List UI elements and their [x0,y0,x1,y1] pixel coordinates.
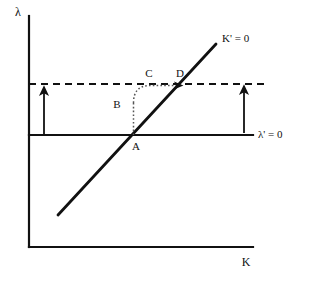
point-label-c: C [145,67,152,79]
k-dot-zero-label: K' = 0 [222,32,250,44]
x-axis-label: K [242,255,251,269]
point-label-b: B [113,98,120,110]
lambda-dot-zero-label: λ' = 0 [258,128,283,140]
point-label-d: D [176,67,184,79]
trajectory-arc-segment [134,86,150,104]
k-dot-zero-locus [58,44,216,215]
point-label-a: A [132,140,140,152]
phase-diagram-figure: λ K λ' = 0 K' = 0 A B C D [0,0,311,281]
y-axis-label: λ [15,5,21,19]
